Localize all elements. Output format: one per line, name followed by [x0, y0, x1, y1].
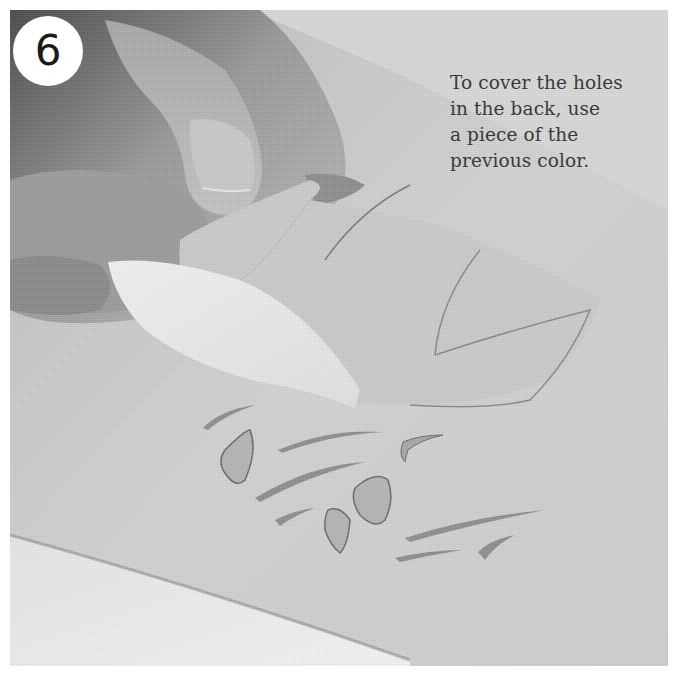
caption-line: previous color. [450, 148, 665, 174]
caption-line: a piece of the [450, 122, 665, 148]
step-number: 6 [35, 30, 62, 72]
instruction-caption: To cover the holes in the back, use a pi… [450, 70, 665, 174]
caption-line: in the back, use [450, 96, 665, 122]
step-number-badge: 6 [13, 16, 83, 86]
caption-line: To cover the holes [450, 70, 665, 96]
